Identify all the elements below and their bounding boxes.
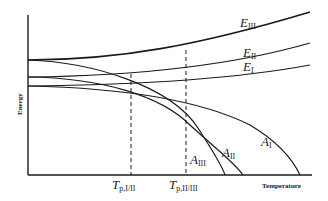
curve-a-ii	[28, 77, 243, 175]
label-a-ii: AII	[221, 145, 236, 161]
x-axis-title: Temperature	[262, 182, 301, 190]
axes	[28, 15, 312, 175]
curve-e-iii	[28, 12, 310, 60]
y-axis-title: Energy	[16, 93, 24, 115]
label-e-iii: EIII	[239, 15, 256, 31]
energy-temperature-diagram: EIII EII EI AI AII AIII Tp,I/II Tp,II/II…	[0, 0, 328, 201]
label-tp-i-ii: Tp,I/II	[112, 177, 136, 193]
label-a-iii: AIII	[189, 152, 206, 168]
label-e-i: EI	[242, 59, 254, 75]
curve-a-i	[28, 86, 300, 175]
label-tp-ii-iii: Tp,II/III	[169, 177, 198, 193]
label-a-i: AI	[260, 134, 272, 150]
